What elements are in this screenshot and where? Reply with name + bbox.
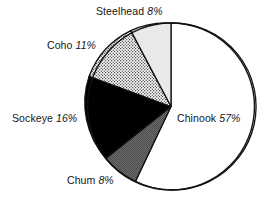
pie-label-steelhead: Steelhead8%	[96, 5, 163, 17]
pie-label-sockeye-name: Sockeye	[12, 112, 53, 124]
pie-label-chinook-name: Chinook	[177, 112, 216, 124]
pie-label-chum: Chum8%	[67, 174, 114, 186]
pie-label-sockeye: Sockeye16%	[12, 112, 77, 124]
pie-label-steelhead-name: Steelhead	[96, 5, 144, 17]
pie-label-coho-value: 11%	[76, 39, 97, 51]
pie-label-chinook-value: 57%	[219, 112, 240, 124]
pie-label-sockeye-value: 16%	[56, 112, 77, 124]
pie-label-coho: Coho11%	[47, 39, 96, 51]
pie-label-chum-name: Chum	[67, 174, 95, 186]
pie-label-chinook: Chinook57%	[177, 112, 241, 124]
pie-label-steelhead-value: 8%	[147, 5, 162, 17]
pie-label-coho-name: Coho	[47, 39, 73, 51]
pie-label-chum-value: 8%	[98, 174, 113, 186]
pie-chart-figure: Steelhead8% Coho11% Sockeye16% Chum8% Ch…	[0, 0, 264, 201]
pie-chart-graphic	[0, 0, 264, 201]
